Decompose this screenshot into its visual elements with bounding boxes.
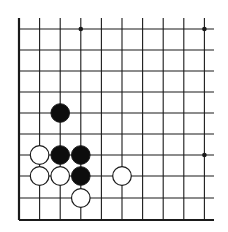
star-point-icon [79,27,84,32]
board-grid [19,18,214,220]
white-stone [72,189,91,208]
white-stone [113,167,132,186]
white-stone [30,146,49,165]
star-point-icon [202,153,207,158]
black-stone [51,146,70,165]
white-stone [30,167,49,186]
black-stone [51,104,70,123]
go-board [0,0,228,232]
black-stone [72,167,91,186]
white-stone [51,167,70,186]
black-stone [72,146,91,165]
star-point-icon [202,27,207,32]
